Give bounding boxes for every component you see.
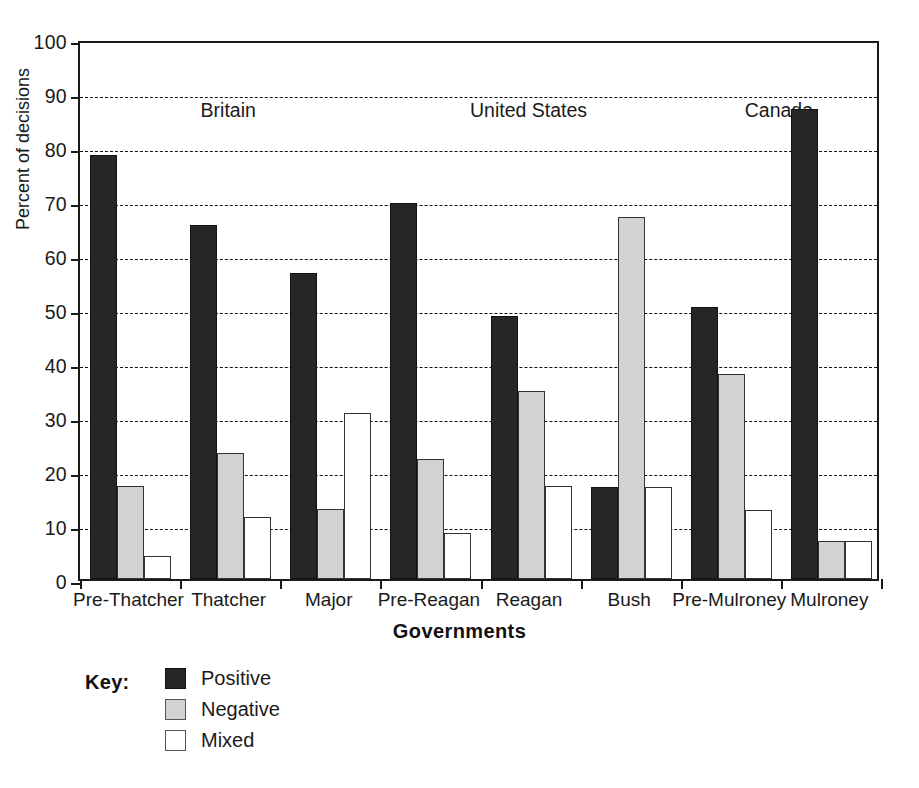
x-axis-group-label: Reagan — [496, 590, 563, 609]
y-tick-mark — [71, 583, 80, 585]
y-tick-mark — [71, 529, 80, 531]
y-tick-label: 60 — [45, 249, 67, 269]
x-tick-mark — [380, 579, 382, 589]
y-tick-label: 90 — [45, 87, 67, 107]
y-tick-label: 40 — [45, 357, 67, 377]
x-axis-group-label: Mulroney — [790, 590, 868, 609]
y-tick-mark — [71, 313, 80, 315]
bar-mulroney-positive — [791, 109, 818, 579]
legend-swatch-icon — [165, 668, 186, 689]
x-tick-mark — [581, 579, 583, 589]
bar-bush-mixed — [645, 487, 672, 579]
y-tick-mark — [71, 151, 80, 153]
bar-major-mixed — [344, 413, 371, 579]
x-axis-title: Governments — [0, 620, 919, 643]
bar-bush-positive — [591, 487, 618, 579]
y-tick-label: 0 — [56, 573, 67, 593]
bar-thatcher-negative — [217, 453, 244, 579]
bar-pre-reagan-mixed — [444, 533, 471, 579]
x-tick-mark — [80, 579, 82, 589]
bar-pre-thatcher-positive — [90, 155, 117, 579]
y-tick-label: 30 — [45, 411, 67, 431]
bar-reagan-mixed — [545, 486, 572, 579]
x-axis-group-label: Pre-Reagan — [378, 590, 480, 609]
country-annotation: Britain — [201, 101, 256, 121]
legend-label: Mixed — [201, 728, 254, 752]
y-tick-mark — [71, 367, 80, 369]
y-tick-label: 20 — [45, 465, 67, 485]
y-tick-label: 50 — [45, 303, 67, 323]
plot-area: 0102030405060708090100 — [78, 41, 879, 581]
bar-chart-figure: Percent of decisions 0102030405060708090… — [0, 0, 919, 788]
bar-bush-negative — [618, 217, 645, 579]
bar-reagan-positive — [491, 316, 518, 579]
x-tick-mark — [781, 579, 783, 589]
bar-pre-mulroney-positive — [691, 307, 718, 579]
x-axis-group-label: Pre-Mulroney — [672, 590, 786, 609]
y-tick-mark — [71, 205, 80, 207]
y-tick-mark — [71, 97, 80, 99]
x-axis-group-label: Pre-Thatcher — [73, 590, 184, 609]
x-axis-group-label: Thatcher — [191, 590, 266, 609]
legend-swatch-icon — [165, 730, 186, 751]
bar-pre-thatcher-negative — [117, 486, 144, 579]
gridline — [80, 151, 877, 152]
y-tick-mark — [71, 421, 80, 423]
gridline — [80, 205, 877, 206]
x-tick-mark — [881, 579, 883, 589]
bar-thatcher-positive — [190, 225, 217, 579]
x-tick-mark — [481, 579, 483, 589]
y-tick-label: 70 — [45, 195, 67, 215]
x-tick-mark — [280, 579, 282, 589]
x-tick-mark — [180, 579, 182, 589]
gridline — [80, 97, 877, 98]
x-tick-mark — [681, 579, 683, 589]
legend-label: Positive — [201, 666, 271, 690]
country-annotation: United States — [470, 101, 587, 121]
bar-reagan-negative — [518, 391, 545, 579]
x-axis-group-label: Major — [305, 590, 353, 609]
y-tick-label: 80 — [45, 141, 67, 161]
bar-major-positive — [290, 273, 317, 579]
y-axis-title: Percent of decisions — [13, 200, 34, 230]
legend-label: Negative — [201, 697, 280, 721]
bar-pre-reagan-negative — [417, 459, 444, 579]
legend-swatch-icon — [165, 699, 186, 720]
y-tick-mark — [71, 475, 80, 477]
bar-pre-mulroney-mixed — [745, 510, 772, 579]
bar-pre-mulroney-negative — [718, 374, 745, 579]
legend-title: Key: — [85, 671, 130, 694]
bar-major-negative — [317, 509, 344, 579]
y-tick-label: 10 — [45, 519, 67, 539]
y-tick-label: 100 — [34, 33, 67, 53]
bar-thatcher-mixed — [244, 517, 271, 579]
bar-pre-reagan-positive — [390, 203, 417, 579]
x-axis-group-label: Bush — [607, 590, 650, 609]
bar-mulroney-mixed — [845, 541, 872, 579]
bar-pre-thatcher-mixed — [144, 556, 171, 579]
y-tick-mark — [71, 259, 80, 261]
y-tick-mark — [71, 43, 80, 45]
bar-mulroney-negative — [818, 541, 845, 579]
